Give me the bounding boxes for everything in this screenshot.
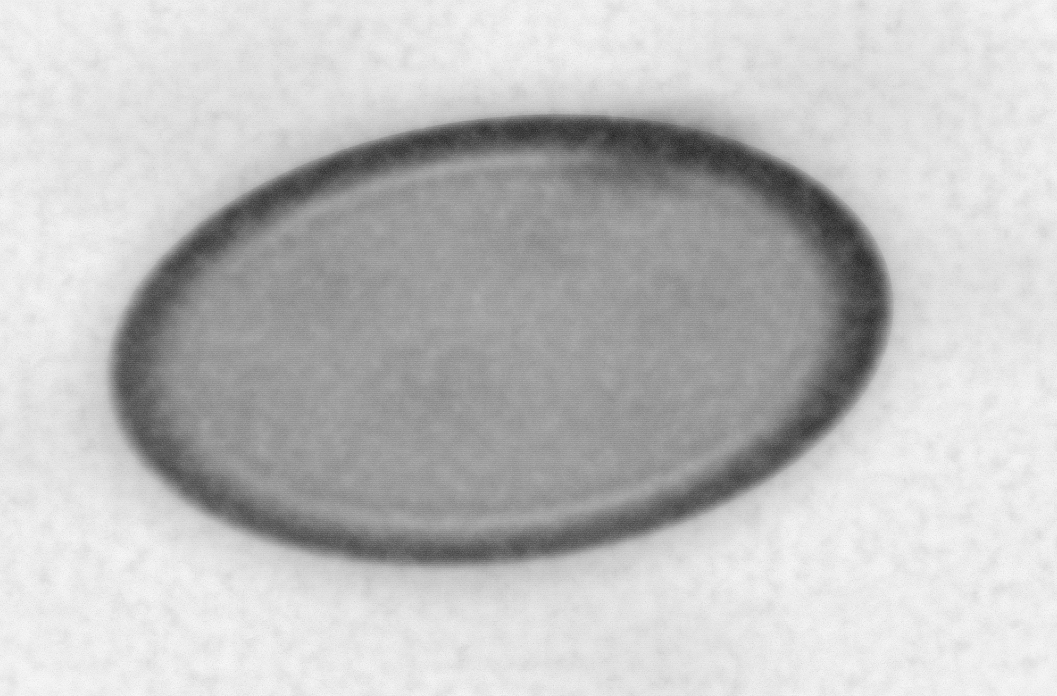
micrograph-canvas [0, 0, 1057, 696]
